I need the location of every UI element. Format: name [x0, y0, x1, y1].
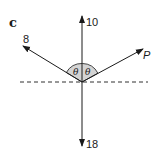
force-diagram: c 10 18 8 P θ θ	[0, 0, 153, 153]
force-label-up: 10	[86, 16, 98, 28]
angle-label-right: θ	[85, 67, 91, 77]
force-label-upper-right: P	[143, 49, 151, 61]
part-label: c	[9, 15, 17, 30]
force-label-down: 18	[86, 138, 98, 150]
force-label-upper-left: 8	[23, 33, 29, 45]
angle-label-left: θ	[73, 67, 79, 77]
